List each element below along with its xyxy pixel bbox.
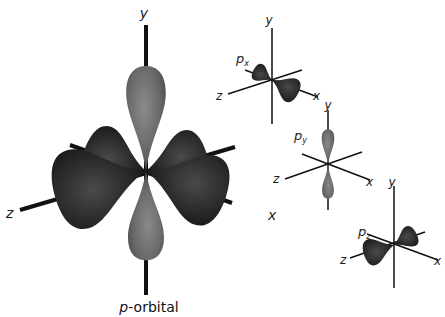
main-z-label: z (5, 205, 14, 221)
svg-text:y: y (323, 98, 332, 112)
svg-text:x: x (433, 254, 442, 268)
svg-text:y: y (387, 175, 396, 189)
inset-py-label: py (293, 128, 307, 145)
inset-px-label: px (235, 51, 249, 68)
inset-px: y x z px (215, 13, 321, 124)
svg-text:x: x (312, 89, 321, 103)
inset-pz-label: pz (357, 224, 371, 241)
main-y-label: y (139, 5, 149, 21)
svg-text:z: z (215, 89, 223, 103)
orbital-diagram: y x z p-orbital y x z px y x z py y x z (0, 0, 445, 317)
inset-pz: y x z pz (339, 175, 442, 288)
svg-text:y: y (264, 13, 273, 27)
svg-text:z: z (272, 172, 280, 186)
svg-text:z: z (339, 253, 347, 267)
main-x-label: x (267, 207, 277, 223)
main-caption: p-orbital (118, 299, 178, 315)
inset-py: y x z py (272, 98, 374, 210)
lobe-y-negative (128, 171, 164, 260)
svg-text:x: x (365, 175, 374, 189)
